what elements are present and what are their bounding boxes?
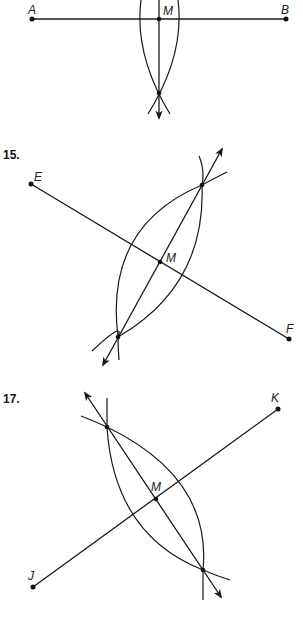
perpendicular-bisector — [103, 149, 222, 365]
label-a: A — [27, 3, 36, 17]
arc-intersection — [157, 91, 162, 96]
point-j — [31, 585, 36, 590]
label-f: F — [286, 322, 294, 336]
problem-number: 17. — [3, 392, 20, 406]
label-j: J — [27, 569, 35, 583]
point-e — [29, 182, 34, 187]
problem-17: 17. J K M — [3, 391, 281, 600]
label-m: M — [163, 4, 173, 18]
label-m: M — [166, 251, 176, 265]
perpendicular-bisector — [85, 393, 221, 597]
label-e: E — [34, 170, 43, 184]
point-b — [284, 17, 289, 22]
point-f — [287, 337, 292, 342]
problem-15: 15. E F M — [3, 148, 294, 365]
compass-arc — [118, 156, 203, 360]
point-k — [276, 407, 281, 412]
midpoint-m — [154, 497, 159, 502]
label-m: M — [151, 480, 161, 494]
arc-intersection — [200, 183, 205, 188]
label-b: B — [281, 3, 289, 17]
arc-intersection — [116, 335, 121, 340]
problem-top: A B M — [27, 0, 289, 118]
arc-intersection — [201, 568, 206, 573]
problem-number: 15. — [3, 148, 20, 162]
midpoint-m — [157, 17, 162, 22]
label-k: K — [271, 391, 280, 405]
point-a — [30, 17, 35, 22]
midpoint-m — [158, 260, 163, 265]
constructions-canvas: A B M 15. E F M 17. J K M — [0, 0, 303, 620]
arc-intersection — [105, 425, 110, 430]
